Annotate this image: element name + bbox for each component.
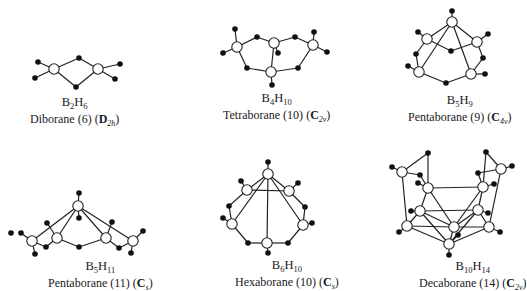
bond-line (247, 190, 289, 191)
boron-atom (93, 64, 103, 74)
boron-atom (73, 201, 83, 211)
boron-atom (266, 67, 276, 77)
hydrogen-atom (309, 220, 315, 226)
hydrogen-atom (485, 210, 491, 216)
name-pentaborane-9: Pentaborane (9) (C4v) (408, 111, 512, 128)
label-diborane: B2H6 Diborane (6) (D2h) (30, 96, 119, 130)
hydrogen-atom (76, 190, 82, 196)
hydrogen-atom (265, 250, 271, 256)
hydrogen-atom (128, 250, 134, 256)
hydrogen-atom (497, 229, 503, 235)
bond-line (407, 226, 449, 244)
hydrogen-atom (405, 63, 411, 69)
boron-atom (414, 67, 424, 77)
hydrogen-atom (112, 76, 118, 82)
name-pentaborane-11: Pentaborane (11) (Cs) (48, 277, 153, 291)
hydrogen-atom (32, 251, 38, 257)
label-hexaborane: B6H10 Hexaborane (10) (Cs) (235, 259, 339, 291)
structure-diborane (32, 55, 123, 90)
boron-atom (227, 219, 237, 229)
hydrogen-atom (295, 180, 301, 186)
boron-atom (478, 182, 488, 192)
boron-atom (397, 167, 407, 177)
boron-atom (101, 233, 111, 243)
hydrogen-atom (480, 55, 486, 61)
hydrogen-atom (455, 232, 461, 238)
hydrogen-atom (396, 229, 402, 235)
hydrogen-atom (254, 34, 260, 40)
name-hexaborane: Hexaborane (10) (Cs) (235, 276, 339, 291)
structure-pentaborane-9 (405, 8, 491, 86)
hydrogen-atom (483, 149, 489, 155)
hydrogen-atom (482, 71, 488, 77)
formula-pentaborane-9: B5H9 (408, 94, 512, 111)
boron-atom (128, 236, 138, 246)
hydrogen-atom (311, 29, 317, 35)
hydrogen-atom (413, 51, 419, 57)
hydrogen-atom (475, 170, 481, 176)
boron-atom (298, 220, 308, 230)
boron-atom (308, 40, 318, 50)
boron-atom (447, 17, 457, 27)
boron-atom (466, 69, 476, 79)
hydrogen-atom (408, 208, 414, 214)
hydrogen-atom (509, 163, 515, 169)
hydrogen-atom (491, 181, 497, 187)
hydrogen-atom (425, 150, 431, 156)
hydrogen-atom (226, 203, 232, 209)
hydrogen-atom (140, 228, 146, 234)
formula-diborane: B2H6 (30, 96, 119, 113)
hydrogen-atom (269, 82, 275, 88)
hydrogen-atom (76, 215, 82, 221)
name-decaborane: Decaborane (14) (C2v) (419, 277, 527, 291)
boron-atom (472, 37, 482, 47)
formula-decaborane: B10H14 (419, 260, 527, 277)
boron-atom (269, 38, 279, 48)
structure-hexaborane (220, 159, 315, 256)
hydrogen-atom (220, 215, 226, 221)
boron-atom (496, 164, 506, 174)
boron-atom (284, 186, 294, 196)
bond-line (407, 226, 454, 227)
hydrogen-atom (117, 61, 123, 67)
hydrogen-atom (8, 230, 14, 236)
boron-atom (242, 185, 252, 195)
bond-line (428, 187, 483, 188)
hydrogen-atom (324, 49, 330, 55)
bond-line (420, 210, 478, 211)
hydrogen-atom (265, 159, 271, 165)
hydrogen-atom (76, 55, 82, 61)
structure-tetraborane (220, 26, 330, 88)
name-diborane: Diborane (6) (D2h) (30, 113, 119, 130)
label-pentaborane-11: B5H11 Pentaborane (11) (Cs) (48, 260, 153, 291)
boron-atom (415, 206, 425, 216)
label-tetraborane: B4H10 Tetraborane (10) (C2v) (223, 92, 330, 126)
formula-pentaborane-11: B5H11 (48, 260, 153, 277)
boron-atom (262, 238, 272, 248)
hydrogen-atom (415, 180, 421, 186)
boron-atom (402, 221, 412, 231)
boron-atom (49, 64, 59, 74)
boron-atom (263, 169, 273, 179)
hydrogen-atom (220, 50, 226, 56)
hydrogen-atom (295, 65, 301, 71)
label-decaborane: B10H14 Decaborane (14) (C2v) (419, 260, 527, 291)
name-tetraborane: Tetraborane (10) (C2v) (223, 109, 330, 126)
label-pentaborane-9: B5H9 Pentaborane (9) (C4v) (408, 94, 512, 128)
structure-pentaborane-11 (8, 190, 146, 257)
hydrogen-atom (443, 80, 449, 86)
bond-line (420, 211, 449, 244)
hydrogen-atom (44, 220, 50, 226)
hydrogen-atom (275, 50, 281, 56)
formula-hexaborane: B6H10 (235, 259, 339, 276)
hydrogen-atom (417, 172, 423, 178)
bond-line (78, 206, 106, 238)
hydrogen-atom (415, 29, 421, 35)
boron-atom (449, 222, 459, 232)
hydrogen-atom (245, 240, 251, 246)
hydrogen-atom (389, 164, 395, 170)
bond-line (419, 22, 452, 72)
bond-line (267, 174, 268, 243)
hydrogen-atom (35, 59, 41, 65)
